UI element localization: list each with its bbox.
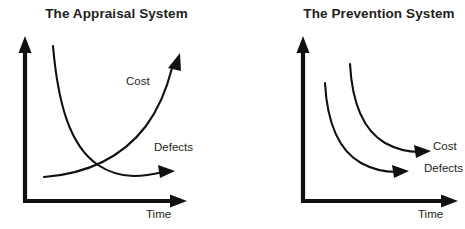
series-label-defects-prevention: Defects <box>424 163 463 175</box>
x-axis-label-prevention: Time <box>418 209 443 221</box>
series-curve-defects-appraisal <box>53 46 163 176</box>
x-axis-label-appraisal: Time <box>146 209 171 221</box>
series-curve-cost-appraisal <box>44 68 172 177</box>
y-axis-arrow-icon-appraisal <box>19 36 32 53</box>
figure-root: The Appraisal System Cost Defects Time T… <box>0 0 465 229</box>
panel-prevention-system: The Prevention System Cost Defects Time <box>233 0 465 229</box>
series-label-defects-appraisal: Defects <box>154 142 193 154</box>
series-label-cost-prevention: Cost <box>433 141 457 153</box>
panel-appraisal-system: The Appraisal System Cost Defects Time <box>0 0 233 229</box>
series-arrow-icon-defects-appraisal <box>158 165 175 178</box>
series-arrow-icon-cost-appraisal <box>168 53 181 71</box>
x-axis-arrow-icon-appraisal <box>170 195 187 208</box>
x-axis-arrow-icon-prevention <box>441 195 458 208</box>
chart-appraisal-system <box>0 0 233 229</box>
series-arrow-icon-defects-prevention <box>392 165 409 178</box>
chart-prevention-system <box>233 0 465 229</box>
series-curve-defects-prevention <box>325 83 396 172</box>
y-axis-arrow-icon-prevention <box>297 36 310 53</box>
series-curve-cost-prevention <box>350 64 419 152</box>
series-arrow-icon-cost-prevention <box>414 145 431 158</box>
series-label-cost-appraisal: Cost <box>126 76 150 88</box>
